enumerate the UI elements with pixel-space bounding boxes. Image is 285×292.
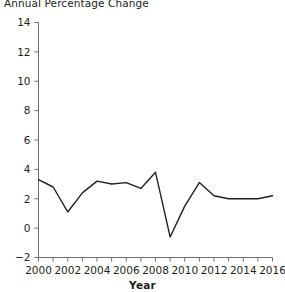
y-tick-label: 12 — [17, 46, 30, 58]
y-tick-label: 10 — [17, 75, 30, 87]
series-line — [39, 172, 273, 237]
y-tick-label: 14 — [17, 16, 31, 28]
y-tick-label: 2 — [24, 193, 31, 205]
y-tick-label: 8 — [24, 104, 31, 116]
chart-plot-area: −202468101214 20002002200420062008201020… — [0, 0, 285, 292]
chart-container: Annual Percentage Change −202468101214 2… — [0, 0, 285, 292]
x-tick-label: 2006 — [113, 264, 140, 276]
y-tick-label: −2 — [15, 251, 30, 263]
data-series-line — [39, 172, 273, 237]
x-tick-label: 2010 — [171, 264, 198, 276]
y-axis: −202468101214 — [15, 16, 38, 263]
x-tick-label: 2016 — [259, 264, 285, 276]
x-tick-label: 2000 — [25, 264, 52, 276]
x-tick-label: 2008 — [142, 264, 169, 276]
x-axis: 200020022004200620082010201220142016 — [25, 258, 285, 276]
x-tick-label: 2002 — [54, 264, 81, 276]
y-tick-label: 6 — [24, 134, 31, 146]
x-tick-label: 2012 — [201, 264, 228, 276]
x-tick-label: 2014 — [230, 264, 257, 276]
x-axis-title: Year — [0, 279, 285, 291]
y-tick-label: 0 — [24, 222, 31, 234]
x-tick-label: 2004 — [84, 264, 111, 276]
y-tick-label: 4 — [24, 163, 31, 175]
